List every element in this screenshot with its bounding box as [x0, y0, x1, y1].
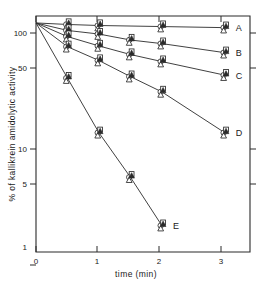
series-label-d: D [236, 128, 243, 138]
series-layer [36, 19, 229, 231]
ytick-label-100: 100 [14, 29, 28, 38]
xtick-label-3: 3 [219, 257, 224, 266]
ytick-label-1: 1 [23, 243, 28, 252]
series-label-e: E [173, 221, 179, 231]
series-label-a: A [236, 23, 242, 33]
ytick-label-50: 50 [18, 64, 27, 73]
series-line-e [36, 23, 162, 226]
ytick-label-5: 5 [23, 180, 28, 189]
chart-svg: 100 50 10 5 1 0 1 2 3 time (min) % of ka… [0, 0, 275, 282]
xtick-label-1: 1 [95, 257, 100, 266]
series-label-c: C [236, 71, 243, 81]
ytick-label-10: 10 [18, 145, 27, 154]
series-e [36, 23, 166, 231]
figure-container: 100 50 10 5 1 0 1 2 3 time (min) % of ka… [0, 0, 275, 282]
series-label-b: B [236, 48, 242, 58]
y-axis-ticks [30, 33, 256, 265]
series-label-layer: ABCDE [173, 23, 243, 231]
xtick-label-0: 0 [34, 257, 39, 266]
y-axis-title: % of kallikrein amidolytic activity [7, 66, 17, 201]
x-axis-title: time (min) [115, 269, 157, 279]
xtick-label-2: 2 [157, 257, 162, 266]
